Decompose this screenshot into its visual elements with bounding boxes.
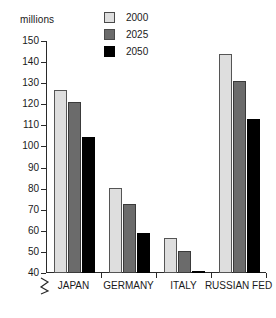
x-axis-tick	[156, 273, 157, 278]
y-axis-tick-label: 150	[15, 36, 39, 46]
y-axis-tick	[41, 231, 46, 232]
x-axis-tick	[266, 273, 267, 278]
legend-item-label: 2000	[126, 13, 148, 23]
y-axis-tick-label: 90	[15, 163, 39, 173]
y-axis-tick	[41, 210, 46, 211]
bar-japan-2000	[54, 90, 67, 273]
legend-item: 2025	[104, 27, 148, 42]
axis-break-icon	[39, 277, 53, 295]
x-axis-label-germany: GERMANY	[103, 280, 154, 291]
y-axis-tick-label: 40	[15, 268, 39, 278]
legend-item: 2000	[104, 10, 148, 25]
bar-russian-fed-2025	[233, 81, 246, 273]
y-axis-tick	[41, 168, 46, 169]
bar-chart: millions 200020252050 405060708090100110…	[0, 0, 276, 318]
y-axis-tick	[41, 104, 46, 105]
y-axis-tick	[41, 125, 46, 126]
x-axis-label-russian-fed: RUSSIAN FED	[205, 280, 272, 291]
y-axis-line	[46, 41, 47, 273]
bar-germany-2050	[137, 233, 150, 273]
bar-italy-2025	[178, 251, 191, 273]
y-axis-tick-label: 110	[15, 120, 39, 130]
y-axis-tick-label: 120	[15, 99, 39, 109]
y-axis-tick	[41, 41, 46, 42]
y-axis-tick-label: 60	[15, 226, 39, 236]
legend-item-label: 2025	[126, 30, 148, 40]
x-axis-label-japan: JAPAN	[58, 280, 90, 291]
y-axis-tick-label: 100	[15, 141, 39, 151]
bar-russian-fed-2000	[219, 54, 232, 273]
y-axis-tick	[41, 83, 46, 84]
y-axis-unit-label: millions	[20, 14, 54, 25]
y-axis-tick	[41, 146, 46, 147]
bar-germany-2000	[109, 188, 122, 273]
bar-italy-2000	[164, 238, 177, 273]
y-axis-tick	[41, 189, 46, 190]
plot-area: 405060708090100110120130140150	[46, 41, 266, 273]
y-axis-tick-label: 70	[15, 205, 39, 215]
y-axis-tick	[41, 273, 46, 274]
x-axis-tick	[211, 273, 212, 278]
y-axis-tick	[41, 252, 46, 253]
bar-germany-2025	[123, 204, 136, 273]
y-axis-tick-label: 80	[15, 184, 39, 194]
y-axis-tick-label: 130	[15, 78, 39, 88]
y-axis-tick	[41, 62, 46, 63]
y-axis-tick-label: 50	[15, 247, 39, 257]
x-axis-tick	[101, 273, 102, 278]
bar-japan-2025	[68, 102, 81, 273]
legend-swatch-2025	[104, 29, 115, 40]
x-axis-label-italy: ITALY	[170, 280, 196, 291]
y-axis-tick-label: 140	[15, 57, 39, 67]
bar-italy-2050	[192, 271, 205, 273]
bar-russian-fed-2050	[247, 119, 260, 273]
bar-japan-2050	[82, 137, 95, 273]
legend-swatch-2000	[104, 12, 115, 23]
